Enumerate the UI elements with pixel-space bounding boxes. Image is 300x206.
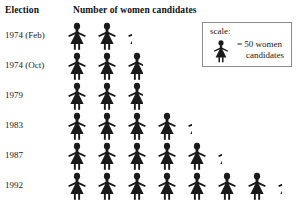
woman-figure-icon [66,112,88,140]
row-label-3: 1983 [5,120,23,130]
woman-figure-icon [186,142,208,170]
woman-figure-icon [96,112,118,140]
column-header-election: Election [5,5,39,15]
woman-figure-icon [66,142,88,170]
woman-figure-icon [96,52,118,80]
woman-figure-icon [126,172,148,200]
scale-legend-title: scale: [210,26,231,36]
chart-row: 1983 [0,110,300,140]
scale-legend-line1: = 50 women [237,39,282,49]
woman-figure-icon [66,82,88,110]
row-label-2: 1979 [5,90,23,100]
woman-figure-partial-icon [186,112,192,140]
scale-legend-line2: candidates [237,50,291,61]
woman-figure-icon [96,142,118,170]
row-label-1: 1974 (Oct) [5,60,44,70]
woman-figure-partial-icon [126,82,143,110]
woman-figure-icon [156,172,178,200]
column-header-values: Number of women candidates [73,5,197,15]
woman-figure-icon [186,172,208,200]
woman-figure-partial-icon [216,142,222,170]
woman-figure-icon [66,172,88,200]
chart-row: 1992 [0,170,300,200]
woman-figure-icon [216,172,238,200]
scale-legend-text: = 50 women candidates [237,39,291,61]
row-label-5: 1992 [5,180,23,190]
woman-figure-icon [126,112,148,140]
woman-figure-icon [156,142,178,170]
chart-row: 1987 [0,140,300,170]
woman-figure-partial-icon [126,22,132,50]
woman-figure-icon [66,22,88,50]
woman-figure-icon [66,52,88,80]
woman-figure-icon [96,172,118,200]
row-label-0: 1974 (Feb) [5,30,45,40]
woman-figure-partial-icon [126,52,143,80]
row-label-4: 1987 [5,150,23,160]
woman-figure-icon [212,39,230,63]
woman-figure-icon [126,142,148,170]
woman-figure-icon [156,112,178,140]
woman-figure-partial-icon [276,172,282,200]
pictogram-chart: Election Number of women candidates 1974… [0,0,300,206]
chart-row: 1979 [0,80,300,110]
woman-figure-icon [246,172,268,200]
woman-figure-icon [96,82,118,110]
scale-legend-box: scale: = 50 women candidates [202,22,292,67]
woman-figure-icon [96,22,118,50]
